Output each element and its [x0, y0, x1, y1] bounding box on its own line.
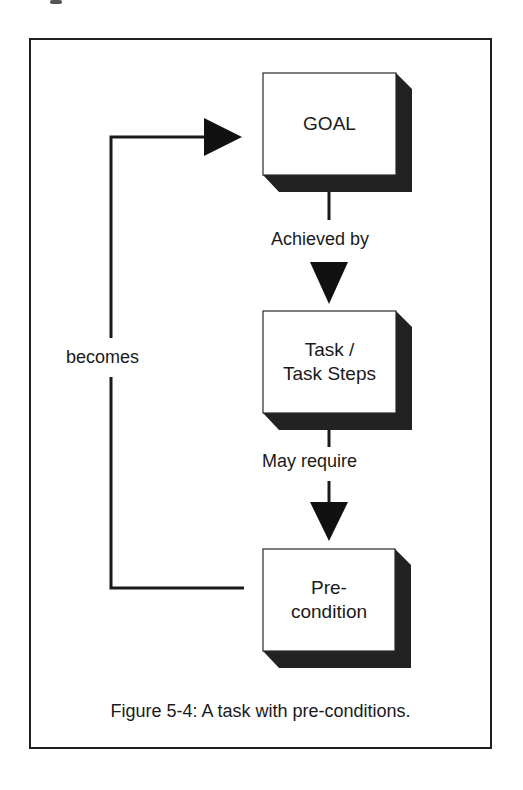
task-label: Task / Task Steps	[263, 311, 396, 413]
may-require-connector	[310, 430, 348, 541]
figure-caption: Figure 5-4: A task with pre-conditions.	[29, 700, 492, 722]
precondition-label: Pre- condition	[263, 549, 395, 651]
achieved-by-label: Achieved by	[269, 228, 371, 250]
down-arrow-icon	[310, 262, 348, 304]
right-arrow-icon	[204, 118, 242, 156]
down-arrow-icon	[310, 502, 348, 541]
may-require-label: May require	[260, 450, 359, 472]
goal-label: GOAL	[263, 73, 396, 175]
becomes-label: becomes	[64, 346, 141, 368]
flow-diagram	[0, 0, 523, 790]
